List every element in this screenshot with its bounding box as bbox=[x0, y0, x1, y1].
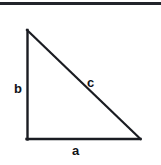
triangle-figure: b c a bbox=[0, 0, 161, 165]
label-vertical-leg-b: b bbox=[14, 82, 22, 95]
label-hypotenuse-c: c bbox=[87, 76, 94, 89]
triangle-drawing bbox=[0, 0, 161, 165]
hypotenuse-line bbox=[27, 30, 141, 139]
label-horizontal-leg-a: a bbox=[72, 144, 79, 157]
